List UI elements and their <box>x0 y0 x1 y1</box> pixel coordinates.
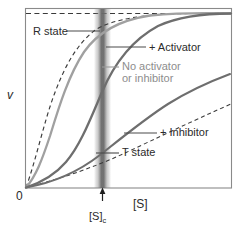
substrate-c-label-sub: c <box>102 216 106 225</box>
y-axis-label: v <box>7 89 13 102</box>
substrate-c-label: [S]c <box>89 210 106 226</box>
annotation-plus-activator: + Activator <box>149 41 201 53</box>
annotation-no-activator-line2: or inhibitor <box>122 72 181 84</box>
annotation-no-activator-line1: No activator <box>122 60 181 72</box>
substrate-c-band <box>94 9 111 188</box>
annotation-no-activator-or-inhibitor: No activator or inhibitor <box>122 60 181 85</box>
origin-label: 0 <box>16 190 23 203</box>
substrate-c-label-base: [S] <box>89 210 102 222</box>
kinetics-figure: v 0 [S] [S]c R state + Activator No acti… <box>0 0 245 229</box>
annotation-r-state: R state <box>33 25 68 37</box>
substrate-c-arrow <box>100 188 106 202</box>
annotation-plus-inhibitor: + Inhibitor <box>160 126 209 138</box>
x-axis-label: [S] <box>133 198 148 211</box>
annotation-t-state: T state <box>122 146 155 158</box>
